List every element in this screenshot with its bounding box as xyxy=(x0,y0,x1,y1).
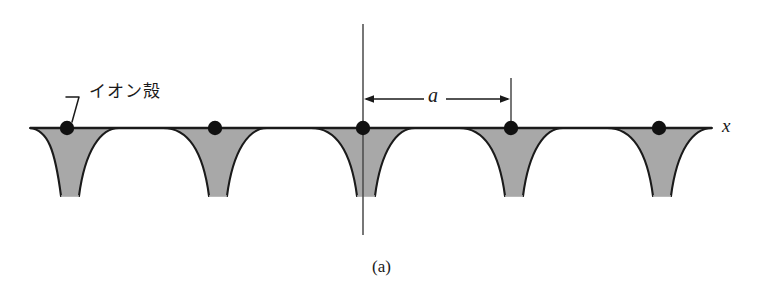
potential-well-fill-1 xyxy=(163,128,267,196)
ion-core xyxy=(652,121,666,135)
ion-core-label: イオン殻 xyxy=(89,83,161,100)
ion-core xyxy=(356,121,370,135)
ion-core xyxy=(60,121,74,135)
arrowhead-left xyxy=(364,95,374,103)
ion-core xyxy=(504,121,518,135)
ion-core xyxy=(208,121,222,135)
ion-core-leader-line xyxy=(66,97,79,122)
periodic-potential-diagram xyxy=(0,0,763,297)
x-axis-label: x xyxy=(722,116,730,135)
periodic-potential-figure: イオン殻 a x (a) xyxy=(0,0,763,297)
potential-well-fill-edge-left xyxy=(30,128,119,196)
potential-well-fill-3 xyxy=(459,128,563,196)
figure-caption: (a) xyxy=(0,258,763,275)
lattice-constant-label: a xyxy=(428,85,438,105)
potential-well-fill-4 xyxy=(607,128,712,196)
arrowhead-right xyxy=(500,95,510,103)
